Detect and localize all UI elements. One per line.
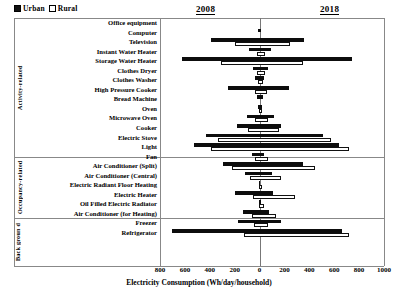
chart-row: [160, 28, 384, 38]
category-label: Air Conditioner (Central): [14, 171, 160, 181]
bar-urban: [253, 67, 269, 71]
category-label: Storage Water Heater: [14, 56, 160, 66]
panel-header-2008: 2008: [196, 4, 215, 15]
bar-rural: [253, 195, 295, 199]
category-label-column: Office equipmentComputerTelevisionInstan…: [14, 18, 160, 238]
bar-urban: [247, 115, 274, 119]
x-tick-label: 600: [180, 266, 191, 274]
chart-row: [160, 199, 384, 209]
bar-urban: [249, 48, 271, 52]
category-label: Fan: [14, 152, 160, 162]
chart-row: [160, 37, 384, 47]
category-label: Cooker: [14, 123, 160, 133]
bar-urban: [206, 134, 323, 138]
bar-rural: [235, 42, 291, 46]
bar-urban: [194, 143, 340, 147]
x-tick-label: 200: [229, 266, 240, 274]
bar-rural: [257, 71, 265, 75]
bar-urban: [182, 57, 352, 61]
x-tick-label: 1000: [377, 266, 391, 274]
bar-urban: [258, 29, 261, 33]
legend-swatch-urban-icon: [14, 5, 21, 12]
category-label: Television: [14, 37, 160, 47]
bar-rural: [254, 223, 268, 227]
bar-rural: [255, 118, 269, 122]
chart-row: [160, 171, 384, 181]
bar-urban: [258, 105, 262, 109]
chart-row: [160, 66, 384, 76]
bar-urban: [245, 172, 272, 176]
category-label: Electric Heater: [14, 190, 160, 200]
bar-urban: [237, 124, 282, 128]
chart-row: [160, 209, 384, 219]
chart-row: [160, 104, 384, 114]
category-label: High Pressure Cooker: [14, 85, 160, 95]
x-tick-label: 800: [155, 266, 166, 274]
category-label: Office equipment: [14, 18, 160, 28]
legend-item-urban: Urban: [14, 4, 45, 13]
bar-rural: [221, 61, 303, 65]
bar-urban: [211, 38, 304, 42]
bar-rural: [244, 233, 349, 237]
bar-urban: [252, 153, 264, 157]
bar-rural: [232, 166, 315, 170]
x-tick-label: 600: [329, 266, 340, 274]
chart-row: [160, 180, 384, 190]
x-tick-label: 800: [354, 266, 365, 274]
chart-row: [160, 85, 384, 95]
category-label: Refrigerator: [14, 228, 160, 238]
legend: Urban Rural: [14, 4, 78, 13]
legend-label-urban: Urban: [23, 4, 45, 13]
bar-urban: [259, 181, 260, 185]
chart-row: [160, 18, 384, 28]
bar-urban: [238, 220, 281, 224]
bar-urban: [255, 76, 264, 80]
bar-urban: [259, 200, 261, 204]
category-label: Microwave Oven: [14, 113, 160, 123]
bar-rural: [250, 176, 281, 180]
chart-row: [160, 142, 384, 152]
category-label: Air Conditioner (for Heating): [14, 209, 160, 219]
bar-rural: [252, 214, 276, 218]
bar-rural: [259, 204, 264, 208]
bar-urban: [243, 210, 269, 214]
chart-row: [160, 218, 384, 228]
chart-row: [160, 161, 384, 171]
category-label: Clothes Washer: [14, 75, 160, 85]
chart-row: [160, 94, 384, 104]
panel-header-2018: 2018: [320, 4, 339, 15]
chart-row: [160, 133, 384, 143]
bar-rural: [255, 157, 268, 161]
category-label: Oil Filled Electric Radiator: [14, 199, 160, 209]
category-label: Computer: [14, 28, 160, 38]
bar-rural: [218, 138, 331, 142]
category-label: Oven: [14, 104, 160, 114]
x-tick-label: 200: [279, 266, 290, 274]
category-label: Clothes Dryer: [14, 66, 160, 76]
bar-rural: [258, 80, 263, 84]
legend-label-rural: Rural: [58, 4, 78, 13]
chart-row: [160, 228, 384, 238]
bar-rural: [257, 52, 265, 56]
category-label: Bread Machine: [14, 94, 160, 104]
category-label: Electric Radiant Floor Heating: [14, 180, 160, 190]
chart-row: [160, 152, 384, 162]
bar-urban: [235, 191, 274, 195]
category-label: Electric Stove: [14, 133, 160, 143]
legend-swatch-rural-icon: [49, 5, 56, 12]
bar-rural: [259, 109, 262, 113]
chart-row: [160, 123, 384, 133]
category-label: Light: [14, 142, 160, 152]
category-label: Air Conditioner (Split): [14, 161, 160, 171]
chart-figure: Urban Rural 2008 2018 Activity-related O…: [0, 0, 398, 302]
bar-rural: [248, 128, 279, 132]
bar-urban: [223, 162, 303, 166]
bar-urban: [228, 86, 289, 90]
bar-urban: [172, 229, 341, 233]
category-label: Instant Water Heater: [14, 47, 160, 57]
bar-rural: [255, 90, 267, 94]
x-tick-label: 400: [304, 266, 315, 274]
chart-row: [160, 47, 384, 57]
bar-rural: [211, 147, 349, 151]
category-label: Freezer: [14, 218, 160, 228]
